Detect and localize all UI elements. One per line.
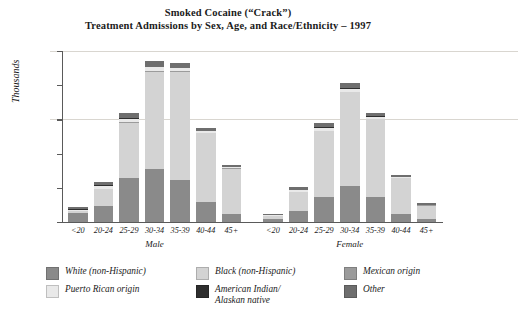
legend-label: Mexican origin [363, 266, 420, 277]
bar-segment [94, 189, 114, 205]
legend-label: Black (non-Hispanic) [215, 266, 295, 277]
x-group-label: Male [115, 239, 195, 249]
chart-title: Smoked Cocaine (“Crack”) [0, 6, 456, 19]
legend-item[interactable]: White (non-Hispanic) [46, 266, 196, 280]
legend-item[interactable]: Puerto Rican origin [46, 284, 196, 305]
x-group-label: Female [310, 239, 390, 249]
gridline [50, 51, 518, 52]
bar-segment [417, 219, 437, 222]
bar-segment [94, 206, 114, 222]
bar-segment [289, 192, 309, 211]
bar-segment [119, 123, 139, 178]
bar-segment [145, 72, 165, 170]
legend-swatch [344, 267, 357, 280]
bar-segment [417, 206, 437, 220]
bar-segment [289, 211, 309, 222]
bar-segment [196, 202, 216, 222]
legend-item[interactable]: Other [344, 284, 444, 305]
x-tick-label: 45+ [407, 226, 447, 235]
legend-swatch [196, 267, 209, 280]
legend-swatch [344, 285, 357, 298]
bar-stack [68, 207, 88, 222]
legend-swatch [196, 285, 209, 298]
bar-segment [222, 214, 242, 222]
x-tick-label: 45+ [211, 226, 251, 235]
bar-segment [68, 213, 88, 222]
chart-title-block: Smoked Cocaine (“Crack”) Treatment Admis… [0, 6, 456, 32]
y-axis-line [62, 51, 63, 222]
legend-swatch [46, 285, 59, 298]
bar-stack [196, 128, 216, 222]
bar-stack [366, 113, 386, 222]
bar-segment [145, 169, 165, 222]
bar-segment [314, 197, 334, 222]
bar-segment [340, 186, 360, 222]
legend-label: White (non-Hispanic) [65, 266, 146, 277]
bar-stack [170, 63, 190, 222]
bar-segment [366, 197, 386, 222]
bar-segment [196, 133, 216, 202]
bar-segment [222, 169, 242, 214]
bar-segment [366, 119, 386, 196]
legend-label: American Indian/Alaskan native [215, 284, 280, 305]
bar-segment [170, 72, 190, 180]
x-axis-line [62, 222, 443, 223]
legend-item[interactable]: American Indian/Alaskan native [196, 284, 344, 305]
bar-segment [340, 92, 360, 186]
plot-area: Thousands 0510152025 <2020-2425-2930-343… [62, 51, 443, 222]
bar-stack [289, 187, 309, 222]
legend-item[interactable]: Mexican origin [344, 266, 444, 280]
y-axis-title: Thousands [10, 60, 21, 103]
bar-stack [314, 123, 334, 222]
bar-stack [222, 165, 242, 222]
bar-stack [417, 203, 437, 222]
legend-item[interactable]: Black (non-Hispanic) [196, 266, 344, 280]
bar-segment [119, 178, 139, 222]
legend-label: Puerto Rican origin [65, 284, 139, 295]
bar-stack [94, 182, 114, 222]
bar-segment [391, 178, 411, 214]
bar-segment [391, 214, 411, 222]
bar-stack [145, 61, 165, 222]
bar-segment [170, 180, 190, 222]
bar-segment [314, 131, 334, 197]
bar-stack [391, 175, 411, 222]
bar-segment [263, 219, 283, 222]
bar-stack [340, 83, 360, 222]
chart-subtitle: Treatment Admissions by Sex, Age, and Ra… [0, 19, 456, 32]
bar-stack [119, 113, 139, 222]
legend-swatch [46, 267, 59, 280]
chart-legend: White (non-Hispanic)Black (non-Hispanic)… [46, 266, 446, 305]
legend-label: Other [363, 284, 385, 295]
bar-stack [263, 214, 283, 222]
